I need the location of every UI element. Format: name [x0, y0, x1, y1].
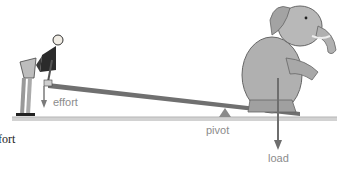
pivot-fulcrum: [219, 108, 231, 117]
load-label: load: [268, 152, 289, 164]
effort-arrow: [41, 86, 47, 108]
pivot-label: pivot: [206, 124, 229, 136]
effort-label: effort: [53, 96, 78, 108]
cropped-caption: fort: [0, 132, 15, 147]
lever-scene: [0, 0, 341, 169]
elephant-figure: [242, 6, 336, 113]
ground: [12, 117, 337, 121]
